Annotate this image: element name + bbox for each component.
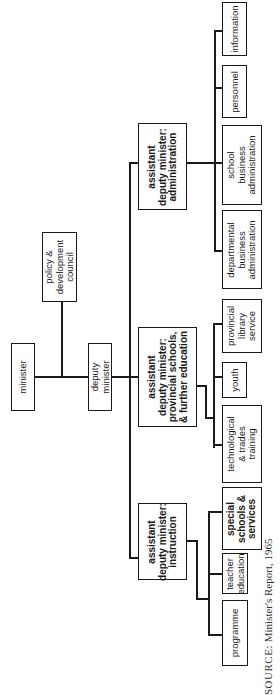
node-teacher-education: teacher education	[222, 553, 248, 594]
node-minister: minister	[11, 343, 35, 411]
trunk-line	[129, 162, 131, 558]
node-programme: programme	[222, 600, 248, 666]
source-caption: SOURCE: Minister's Report, 1965	[262, 539, 274, 695]
node-youth: youth	[222, 362, 247, 398]
connector-instr-down	[196, 540, 198, 598]
node-label: programme	[230, 609, 241, 658]
node-label: provincial library service	[226, 306, 258, 346]
node-departmental-business-administration: departmental business administration	[222, 210, 262, 289]
source-text: Minister's Report, 1965	[262, 539, 274, 645]
stub-programme	[208, 634, 222, 636]
node-label: assistant deputy minister: instruction	[147, 503, 179, 581]
node-label: deputy minister	[90, 360, 111, 393]
stub-tech	[213, 444, 222, 446]
admin-children-line	[214, 30, 216, 251]
stub-dept-business	[214, 250, 222, 252]
connector-adm-admin	[129, 162, 138, 164]
node-label: special schools & services	[226, 495, 258, 543]
node-label: school business administration	[226, 135, 258, 194]
node-policy-development-council: policy & development council	[42, 232, 77, 302]
stub-teacher	[208, 573, 222, 575]
node-provincial-library-service: provincial library service	[222, 299, 262, 353]
stub-library	[213, 323, 222, 325]
node-label: assistant deputy minister: administratio…	[147, 128, 179, 206]
connector-deputy-trunk	[112, 376, 138, 378]
node-label: minister	[18, 360, 29, 393]
prov-children-line	[213, 323, 215, 448]
node-deputy-minister: deputy minister	[88, 343, 112, 411]
node-special-schools-services: special schools & services	[222, 487, 262, 550]
connector-admin-out	[187, 162, 215, 164]
node-adm-provincial-schools: assistant deputy minister: provincial sc…	[138, 327, 197, 427]
node-label: information	[229, 6, 240, 53]
node-adm-instruction: assistant deputy minister: instruction	[138, 503, 187, 580]
stub-school-business	[214, 162, 222, 164]
node-label: personnel	[229, 71, 240, 113]
connector-prov-down	[205, 385, 207, 418]
connector-council	[61, 302, 63, 377]
node-label: youth	[229, 368, 240, 391]
node-information: information	[222, 2, 247, 56]
node-label: teacher education	[225, 553, 246, 594]
connector-adm-instr	[129, 557, 138, 559]
connector-prov-out	[197, 385, 205, 387]
node-school-business-administration: school business administration	[222, 125, 262, 205]
node-personnel: personnel	[222, 65, 247, 118]
node-label: departmental business administration	[226, 220, 258, 279]
node-technological-trades-training: technological & trades training	[222, 405, 262, 483]
stub-information	[214, 30, 222, 32]
node-label: technological & trades training	[226, 416, 258, 471]
source-prefix: SOURCE:	[262, 645, 274, 695]
node-adm-administration: assistant deputy minister: administratio…	[138, 123, 187, 210]
stub-special	[208, 511, 222, 513]
stub-personnel	[214, 87, 222, 89]
stub-youth	[213, 376, 222, 378]
node-label: policy & development council	[44, 240, 76, 294]
node-label: assistant deputy minister: provincial sc…	[147, 331, 189, 423]
